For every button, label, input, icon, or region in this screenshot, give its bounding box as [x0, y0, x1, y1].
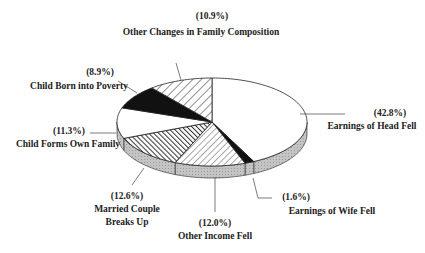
- slice-category-label: Other Income Fell: [178, 231, 253, 241]
- leader-line: [176, 63, 181, 80]
- slice-percent-label: (12.0%): [199, 218, 231, 229]
- pie-slices: [117, 78, 307, 166]
- leader-line: [132, 168, 144, 185]
- slice-category-label: Other Changes in Family Composition: [123, 27, 280, 37]
- slice-category-label: Earnings of Head Fell: [328, 121, 417, 131]
- slice-category-label: Child Forms Own Family: [16, 139, 120, 149]
- leader-line: [253, 178, 272, 198]
- slice-category-label: Earnings of Wife Fell: [289, 206, 376, 216]
- slice-percent-label: (12.6%): [111, 191, 143, 202]
- slice-category-label: Married Couple: [94, 204, 160, 214]
- slice-percent-label: (10.9%): [196, 11, 228, 22]
- pie-chart: (42.8%)Earnings of Head Fell(1.6%)Earnin…: [0, 0, 425, 253]
- slice-percent-label: (42.8%): [374, 108, 406, 119]
- slice-percent-label: (8.9%): [86, 67, 114, 78]
- slice-percent-label: (1.6%): [282, 192, 310, 203]
- slice-category-label: Child Born into Poverty: [30, 81, 128, 91]
- slice-side: [245, 162, 254, 176]
- slice-percent-label: (11.3%): [53, 126, 85, 137]
- slice-category-label: Breaks Up: [106, 217, 149, 227]
